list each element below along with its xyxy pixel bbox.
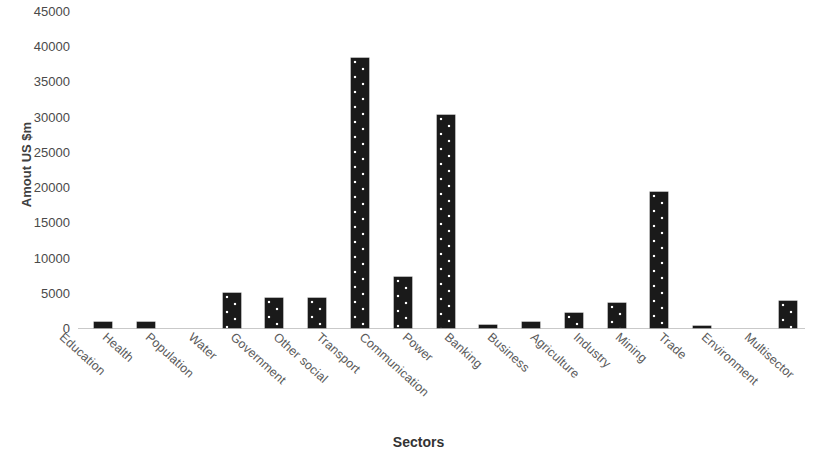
y-tick-label: 35000: [34, 75, 70, 88]
y-tick-label: 5000: [41, 287, 70, 300]
bar: [437, 115, 455, 328]
bar: [779, 301, 797, 328]
bar: [394, 277, 412, 328]
y-tick-label: 10000: [34, 252, 70, 265]
bar: [522, 322, 540, 328]
y-axis-tick-labels: 0500010000150002000025000300003500040000…: [0, 0, 76, 460]
y-tick-label: 20000: [34, 181, 70, 194]
bar: [223, 293, 241, 328]
bar: [479, 325, 497, 328]
y-tick-label: 30000: [34, 111, 70, 124]
x-axis-title-text: Sectors: [393, 434, 444, 450]
bar: [650, 192, 668, 328]
bar: [94, 322, 112, 328]
x-tick-label: Trade: [656, 330, 690, 362]
x-axis-line: [78, 328, 805, 329]
x-axis-tick-labels: EducationHealthPopulationWaterGovernment…: [78, 330, 805, 430]
x-tick-label: Industry: [570, 330, 613, 371]
y-tick-label: 25000: [34, 146, 70, 159]
y-tick-label: 15000: [34, 216, 70, 229]
bar: [137, 322, 155, 328]
x-tick-label: Business: [485, 330, 533, 375]
x-tick-label: Banking: [442, 330, 485, 371]
bar-chart: Amout US $m 0500010000150002000025000300…: [0, 0, 813, 460]
plot-area: [78, 11, 805, 328]
bar: [351, 58, 369, 329]
bar: [608, 303, 626, 328]
bar: [565, 313, 583, 328]
bar: [308, 298, 326, 328]
x-axis-title: Sectors: [0, 434, 813, 450]
bar: [265, 298, 283, 328]
bar-series: [78, 11, 805, 328]
x-tick-label: Health: [100, 330, 137, 365]
x-tick-label: Water: [185, 330, 219, 363]
x-tick-label: Mining: [613, 330, 650, 365]
bar: [693, 326, 711, 329]
x-tick-label: Power: [399, 330, 435, 364]
y-tick-label: 45000: [34, 5, 70, 18]
y-tick-label: 40000: [34, 40, 70, 53]
